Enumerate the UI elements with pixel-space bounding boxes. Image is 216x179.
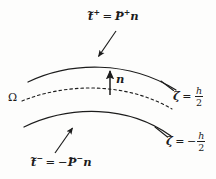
fraction-denominator: 2 xyxy=(195,97,203,107)
traction-top-equals: = xyxy=(100,9,115,23)
traction-top-rhs-vector: n xyxy=(130,11,139,23)
traction-top-rhs-symbol: ~P xyxy=(115,11,124,23)
mid-surface-arc xyxy=(22,88,172,109)
traction-bottom-rhs-vector: n xyxy=(83,157,92,169)
fraction-denominator: 2 xyxy=(197,142,205,152)
traction-bottom-rhs-symbol: ~P xyxy=(68,157,77,169)
traction-bottom-lhs-symbol: ~t xyxy=(31,157,37,169)
fraction-numerator: h xyxy=(195,86,203,96)
shell-domain-figure: ~t+=~P+n ~t−=−~P−n Ω n ζ= h 2 ζ=− h 2 xyxy=(0,0,216,179)
zeta-bottom-label: ζ=− h 2 xyxy=(166,131,205,152)
bottom-surface-arc xyxy=(24,111,171,136)
normal-vector-label: n xyxy=(116,74,124,86)
traction-top-label: ~t+=~P+n xyxy=(88,9,139,22)
traction-bottom-equals: = xyxy=(43,155,58,169)
traction-top-lhs-symbol: ~t xyxy=(88,11,94,23)
zeta-symbol: ζ xyxy=(166,136,173,148)
zeta-top-fraction: h 2 xyxy=(195,86,203,107)
domain-label-omega: Ω xyxy=(8,92,17,103)
traction-bottom-arrow xyxy=(55,128,73,153)
zeta-top-label: ζ= h 2 xyxy=(173,86,203,107)
fraction-numerator: h xyxy=(197,131,205,141)
zeta-bottom-fraction: h 2 xyxy=(197,131,205,152)
top-surface-arc xyxy=(28,67,176,90)
zeta-bottom-sign: − xyxy=(187,136,196,147)
zeta-bottom-equals: = xyxy=(173,136,187,147)
traction-bottom-label: ~t−=−~P−n xyxy=(31,155,92,168)
zeta-top-leader-line xyxy=(161,81,174,91)
zeta-symbol: ζ xyxy=(173,91,180,103)
zeta-top-equals: = xyxy=(180,91,194,102)
traction-top-arrow xyxy=(99,31,117,57)
traction-bottom-sign: − xyxy=(58,155,68,169)
